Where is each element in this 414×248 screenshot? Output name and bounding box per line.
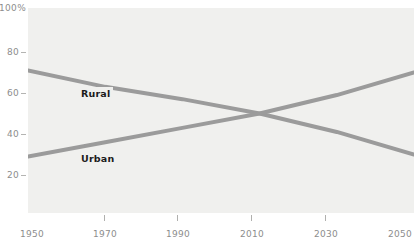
x-tick-label-1970: 1970 — [93, 229, 117, 239]
y-tick-label-40: 40 — [7, 129, 19, 139]
y-tick-label-100: 100% — [0, 3, 26, 13]
x-tick-mark-1990 — [177, 215, 178, 221]
x-axis: 1950 1970 1990 2010 2030 2050 — [0, 213, 414, 248]
x-tick-label-1950: 1950 — [20, 229, 44, 239]
x-tick-label-1990: 1990 — [166, 229, 190, 239]
x-tick-label-2030: 2030 — [314, 229, 338, 239]
plot-svg — [28, 8, 414, 213]
x-tick-mark-1970 — [104, 215, 105, 221]
y-tick-mark-60 — [21, 93, 26, 94]
plot-area: Rural Urban — [28, 8, 414, 213]
y-tick-label-60: 60 — [7, 88, 19, 98]
y-axis: 100% 80 60 40 20 — [0, 0, 28, 248]
y-tick-mark-80 — [21, 52, 26, 53]
y-tick-label-80: 80 — [7, 47, 19, 57]
x-tick-label-2050: 2050 — [388, 229, 412, 239]
x-tick-mark-2030 — [325, 215, 326, 221]
line-chart: 100% 80 60 40 20 Rural Urban 1950 1970 1… — [0, 0, 414, 248]
series-line-urban — [28, 73, 414, 157]
series-label-urban: Urban — [78, 152, 117, 165]
y-tick-label-20: 20 — [7, 170, 19, 180]
series-label-rural: Rural — [78, 87, 113, 100]
y-tick-mark-40 — [21, 134, 26, 135]
x-tick-mark-2010 — [251, 215, 252, 221]
x-tick-label-2010: 2010 — [240, 229, 264, 239]
y-tick-mark-20 — [21, 175, 26, 176]
series-line-rural — [28, 70, 414, 154]
